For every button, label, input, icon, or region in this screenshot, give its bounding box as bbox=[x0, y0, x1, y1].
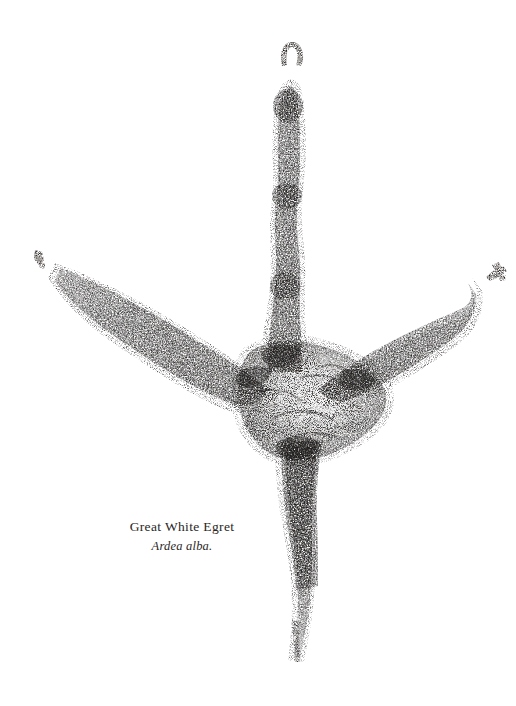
left-toe-claw-icon bbox=[34, 250, 45, 269]
illustration-plate: Great White Egret Ardea alba. bbox=[0, 0, 516, 706]
scientific-name-label: Ardea alba. bbox=[70, 538, 294, 555]
right-toe-claw-icon bbox=[486, 262, 507, 281]
common-name-label: Great White Egret bbox=[70, 518, 294, 536]
bird-track-illustration bbox=[0, 0, 516, 706]
specimen-caption: Great White Egret Ardea alba. bbox=[70, 518, 294, 554]
anterior-toe bbox=[261, 79, 309, 380]
anterior-toe-claw-icon bbox=[281, 42, 303, 66]
